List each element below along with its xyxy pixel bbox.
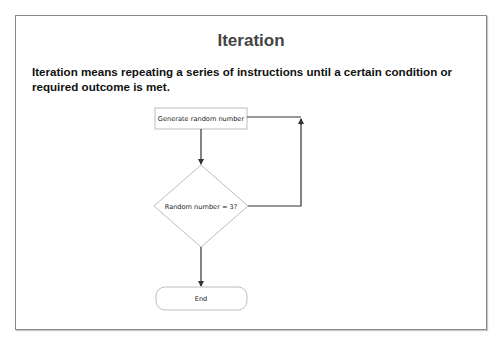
- connector-loop-back: [248, 119, 301, 206]
- decision-node-random-equals-3: Random number = 3?: [154, 165, 248, 247]
- process-node-label: Generate random number: [158, 115, 245, 123]
- end-node-label: End: [195, 295, 208, 303]
- iteration-flowchart: Generate random number Random number = 3…: [0, 0, 503, 345]
- end-node: End: [156, 287, 247, 310]
- decision-node-label: Random number = 3?: [165, 203, 238, 211]
- process-node-generate-random-number: Generate random number: [155, 108, 247, 129]
